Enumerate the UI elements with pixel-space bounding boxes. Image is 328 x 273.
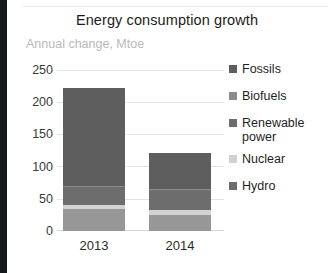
header-divider [22, 6, 328, 7]
legend-swatch-icon [229, 119, 237, 127]
legend-item-hydro[interactable]: Hydro [229, 179, 325, 193]
bar-segment-fossils-2014[interactable] [149, 153, 211, 189]
legend-label: Renewable power [242, 116, 320, 144]
legend-swatch-icon [229, 92, 237, 100]
x-axis: 2013 2014 [57, 238, 224, 262]
y-tick-label: 150 [13, 127, 53, 141]
legend-label: Biofuels [242, 89, 286, 103]
plot-area [57, 70, 224, 231]
legend-item-renewable-power[interactable]: Renewable power [229, 116, 325, 144]
legend-swatch-icon [229, 65, 237, 73]
legend-item-nuclear[interactable]: Nuclear [229, 152, 325, 166]
legend-label: Nuclear [242, 152, 285, 166]
legend-swatch-icon [229, 155, 237, 163]
gridline-250 [57, 70, 224, 71]
legend-swatch-icon [229, 182, 237, 190]
y-tick-label: 50 [13, 192, 53, 206]
bar-segment-renewable-power-2013[interactable] [63, 187, 125, 205]
y-tick-label: 0 [13, 224, 53, 238]
bar-segment-hydro-2014[interactable] [149, 215, 211, 231]
chart-screenshot: Energy consumption growth Annual change,… [0, 0, 328, 273]
y-tick-label: 200 [13, 95, 53, 109]
chart-title: Energy consumption growth [22, 12, 312, 28]
x-tick-label-2014: 2014 [149, 238, 211, 253]
y-tick-label: 100 [13, 160, 53, 174]
bar-segment-hydro-2013[interactable] [63, 209, 125, 232]
bar-segment-fossils-2013[interactable] [63, 88, 125, 186]
bar-segment-renewable-power-2014[interactable] [149, 190, 211, 209]
bar-2013[interactable] [63, 88, 125, 231]
legend-label: Fossils [242, 62, 281, 76]
legend-label: Hydro [242, 179, 275, 193]
legend-item-biofuels[interactable]: Biofuels [229, 89, 325, 103]
bar-2014[interactable] [149, 153, 211, 231]
chart-legend: Fossils Biofuels Renewable power Nuclear… [229, 62, 325, 193]
x-tick-label-2013: 2013 [63, 238, 125, 253]
y-tick-label: 250 [13, 63, 53, 77]
y-axis: 250 200 150 100 50 0 [9, 70, 53, 231]
chart-subtitle: Annual change, Mtoe [26, 37, 144, 51]
legend-item-fossils[interactable]: Fossils [229, 62, 325, 76]
left-edge-strip [0, 0, 7, 273]
